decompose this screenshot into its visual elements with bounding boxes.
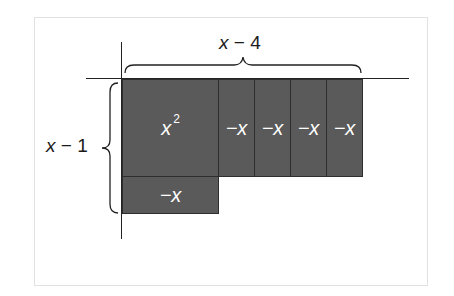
neg-x-tile: −x <box>254 79 291 177</box>
x-squared-exponent: 2 <box>173 112 180 126</box>
top-dimension-label: x − 4 <box>219 32 261 54</box>
neg-x-label: −x <box>262 117 284 140</box>
left-dimension-operator: − <box>61 135 72 156</box>
neg-x-tile: −x <box>218 79 255 177</box>
left-dimension-constant: 1 <box>77 135 88 156</box>
neg-x-bottom-label: −x <box>160 184 182 207</box>
top-dimension-operator: − <box>234 32 245 53</box>
neg-x-label: −x <box>298 117 320 140</box>
neg-x-tile: −x <box>326 79 363 177</box>
left-brace-icon <box>100 82 120 214</box>
left-dimension-label: x − 1 <box>46 135 88 157</box>
top-dimension-constant: 4 <box>250 32 261 53</box>
neg-x-tile: −x <box>290 79 327 177</box>
x-squared-tile: x2 <box>122 79 219 177</box>
top-dimension-variable: x <box>219 32 229 53</box>
neg-x-bottom-tile: −x <box>122 176 219 214</box>
neg-x-label: −x <box>334 117 356 140</box>
neg-x-label: −x <box>226 117 248 140</box>
top-brace-icon <box>124 55 362 75</box>
left-dimension-variable: x <box>46 135 56 156</box>
x-squared-label: x <box>161 117 171 139</box>
